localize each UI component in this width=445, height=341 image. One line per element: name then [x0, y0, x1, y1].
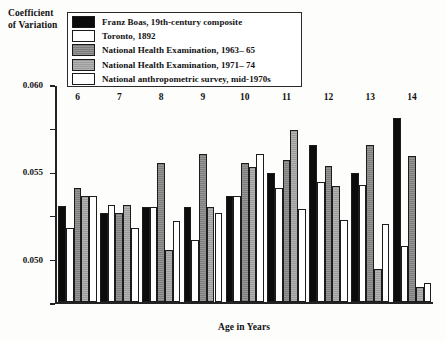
legend-item: National anthropometric survey, mid-1970…	[68, 72, 301, 86]
legend-label: Toronto, 1892	[102, 31, 156, 41]
x-tick-label: 7	[117, 92, 122, 102]
age-group	[98, 86, 140, 302]
bar	[366, 145, 374, 302]
x-tick-label: 8	[159, 92, 164, 102]
legend-swatch-icon	[72, 30, 95, 42]
bar	[298, 209, 306, 302]
y-tick-mark: 0.050	[50, 173, 55, 174]
age-group	[224, 86, 266, 302]
age-group	[266, 86, 308, 302]
bar	[325, 166, 333, 302]
bar	[142, 207, 150, 303]
bar	[332, 186, 340, 302]
chart-legend: Franz Boas, 19th-century compositeToront…	[67, 12, 302, 87]
x-tick-label: 9	[201, 92, 206, 102]
age-group	[308, 86, 350, 302]
legend-swatch-icon	[72, 59, 95, 71]
y-tick-mark: 0.035	[50, 303, 55, 304]
bar	[340, 220, 348, 303]
legend-label: National anthropometric survey, mid-1970…	[102, 74, 271, 84]
bar	[157, 163, 165, 303]
y-tick-mark: 0.055	[50, 129, 55, 130]
legend-label: National Health Examination, 1971– 74	[102, 60, 255, 70]
bar	[100, 213, 108, 302]
x-axis-title: Age in Years	[55, 322, 433, 332]
bar	[256, 154, 264, 302]
x-tick-label: 11	[282, 92, 291, 102]
bar	[108, 205, 116, 303]
bar	[374, 269, 382, 302]
bar	[131, 228, 139, 302]
bar	[165, 250, 173, 302]
legend-swatch-icon	[72, 73, 95, 85]
bar	[241, 163, 249, 303]
age-group	[182, 86, 224, 302]
bar	[173, 221, 181, 302]
bar	[123, 205, 131, 303]
bar	[66, 228, 74, 302]
bar	[290, 130, 298, 303]
bar	[226, 196, 234, 302]
x-tick-label: 6	[75, 92, 80, 102]
bar	[416, 287, 424, 303]
bar	[74, 188, 82, 302]
bars-layer	[57, 86, 433, 302]
age-group	[391, 86, 433, 302]
plot-area: 0.0350.0400.0450.0500.0550.060 678910111…	[55, 86, 433, 304]
bar	[89, 196, 97, 302]
x-axis-line	[55, 302, 433, 304]
bar	[207, 207, 215, 303]
legend-label: Franz Boas, 19th-century composite	[102, 17, 242, 27]
bar	[401, 246, 409, 303]
bar	[150, 207, 158, 303]
bar	[309, 145, 317, 302]
bar	[184, 207, 192, 303]
bar	[275, 188, 283, 302]
legend-swatch-icon	[72, 44, 95, 56]
y-tick-mark: 0.060	[50, 85, 55, 86]
x-tick-label: 13	[366, 92, 376, 102]
bar	[408, 156, 416, 302]
legend-item: Toronto, 1892	[68, 29, 301, 43]
bar	[351, 173, 359, 302]
x-tick-label: 10	[240, 92, 250, 102]
bar	[393, 118, 401, 303]
bar	[215, 213, 223, 302]
bar	[424, 283, 432, 302]
age-group	[140, 86, 182, 302]
legend-item: Franz Boas, 19th-century composite	[68, 15, 301, 29]
bar	[317, 182, 325, 302]
legend-label: National Health Examination, 1963– 65	[102, 45, 255, 55]
y-tick-label: 0.050	[23, 255, 43, 265]
y-tick-mark: 0.040	[50, 260, 55, 261]
legend-item: National Health Examination, 1971– 74	[68, 58, 301, 72]
bar	[199, 154, 207, 302]
bar	[191, 240, 199, 303]
age-group	[349, 86, 391, 302]
y-tick-label: 0.060	[23, 80, 43, 90]
age-group	[57, 86, 99, 302]
y-tick-mark: 0.045	[50, 216, 55, 217]
bar	[115, 213, 123, 302]
bar	[58, 206, 66, 303]
bar	[81, 196, 89, 302]
x-tick-label: 12	[324, 92, 334, 102]
y-tick-label: 0.055	[23, 167, 43, 177]
bar	[267, 173, 275, 302]
bar	[233, 196, 241, 302]
x-tick-label: 14	[407, 92, 417, 102]
bar	[382, 224, 390, 302]
bar	[359, 185, 367, 303]
legend-item: National Health Examination, 1963– 65	[68, 43, 301, 57]
bar	[249, 167, 257, 302]
chart-figure: Coefficient of Variation Franz Boas, 19t…	[0, 0, 445, 341]
bar	[283, 160, 291, 302]
legend-swatch-icon	[72, 16, 95, 28]
